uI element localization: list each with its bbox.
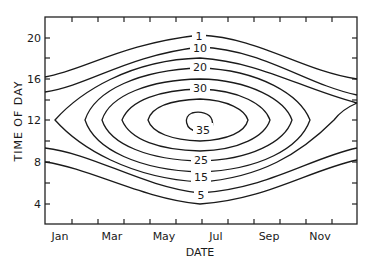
contour-label-30: 30 [193,82,207,95]
x-tick-label: Mar [102,230,123,243]
contour-label-10: 10 [193,42,207,55]
x-tick-label: Nov [309,230,331,243]
x-tick-label: May [153,230,176,243]
x-tick-label: Jul [208,230,222,243]
contour-chart: 20 16 12 8 4 Jan Mar May Jul Sep Nov DAT… [0,0,369,270]
x-tick-label: Jan [51,230,69,243]
x-tick-label: Sep [259,230,280,243]
y-tick-label: 8 [34,156,41,169]
contour-label-35: 35 [196,124,210,137]
y-tick-label: 12 [27,114,41,127]
y-tick-label: 16 [27,73,41,86]
contour-label-20: 20 [193,61,207,74]
contour-label-15: 15 [194,171,208,184]
y-axis-label: TIME OF DAY [12,80,25,162]
x-axis-label: DATE [186,246,215,259]
y-tick-label: 20 [27,32,41,45]
y-tick-label: 4 [34,198,41,211]
contour-label-5: 5 [198,189,205,202]
contour-label-25: 25 [194,154,208,167]
